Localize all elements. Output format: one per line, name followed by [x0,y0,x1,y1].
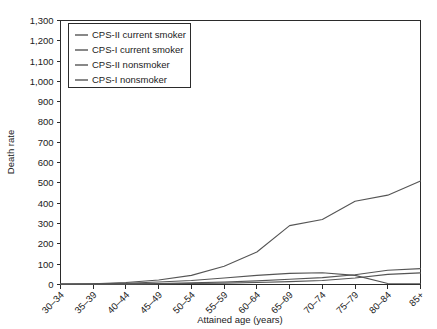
y-tick-label: 0 [48,279,53,290]
legend-label-2: CPS-II nonsmoker [92,59,170,70]
x-tick-label: 60–64 [236,289,262,315]
y-tick-label: 1,100 [30,56,54,67]
x-tick-label: 45–49 [138,289,164,315]
x-tick-label: 30–34 [39,289,65,315]
x-tick-label: 65–69 [269,289,295,315]
legend-label-3: CPS-I nonsmoker [92,74,167,85]
y-tick-label: 700 [38,137,54,148]
y-tick-label: 200 [38,238,54,249]
chart-legend: CPS-II current smokerCPS-I current smoke… [69,24,191,88]
line-chart: 01002003004005006007008009001,0001,1001,… [0,0,437,329]
y-tick-label: 600 [38,157,54,168]
x-tick-label: 50–54 [170,289,196,315]
y-tick-label: 1,200 [30,35,54,46]
chart-container: 01002003004005006007008009001,0001,1001,… [0,0,437,329]
y-tick-label: 800 [38,116,54,127]
series-line-0 [61,181,421,284]
x-tick-label: 80–84 [367,289,393,315]
x-tick-label: 75–79 [334,289,360,315]
legend-label-1: CPS-I current smoker [92,44,183,55]
y-tick-label: 1,300 [30,15,54,26]
y-tick-label: 1,000 [30,76,54,87]
y-tick-label: 900 [38,96,54,107]
x-tick-label: 55–59 [203,289,229,315]
x-axis-ticks: 30–3435–3940–4445–4950–5455–5960–6465–69… [39,285,426,316]
x-axis-title: Attained age (years) [197,314,283,325]
y-axis-ticks: 01002003004005006007008009001,0001,1001,… [30,15,61,290]
x-tick-label: 40–44 [105,289,131,315]
x-tick-label: 85+ [407,289,426,308]
legend-label-0: CPS-II current smoker [92,29,186,40]
x-tick-label: 35–39 [72,289,98,315]
y-axis-title: Death rate [5,130,16,174]
y-tick-label: 400 [38,198,54,209]
y-tick-label: 100 [38,259,54,270]
y-tick-label: 500 [38,177,54,188]
data-series-group [61,181,421,284]
y-tick-label: 300 [38,218,54,229]
x-tick-label: 70–74 [301,289,327,315]
